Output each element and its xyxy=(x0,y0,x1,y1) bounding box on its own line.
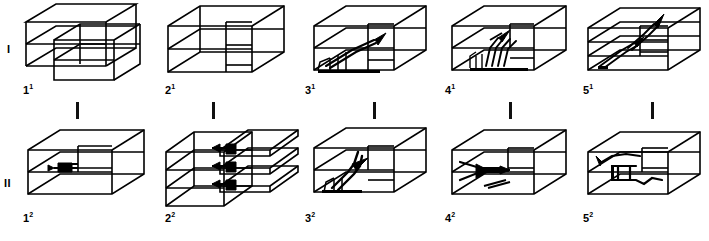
cell-label-sup: 1 xyxy=(29,83,33,90)
cell-label-sup: 1 xyxy=(311,83,315,90)
cell-label-1-2: 12 xyxy=(23,211,33,224)
separator-tick xyxy=(212,102,215,119)
cell-label-1-1: 11 xyxy=(23,83,33,96)
block-diagram-5-1: 51 xyxy=(578,0,709,104)
block-diagram-4-1: 41 xyxy=(440,0,582,104)
cell-label-sup: 2 xyxy=(589,211,593,218)
block-diagram-5-2: 52 xyxy=(578,122,709,226)
block-drawing-2-1 xyxy=(160,0,302,88)
block-drawing-4-2 xyxy=(440,122,582,210)
block-drawing-5-1 xyxy=(578,0,709,88)
cell-label-sup: 1 xyxy=(589,83,593,90)
cell-label-2-1: 21 xyxy=(165,83,175,96)
base-bar xyxy=(470,68,528,71)
cell-label-4-1: 41 xyxy=(445,83,455,96)
block-diagram-2-2: 22 xyxy=(160,122,302,226)
block-diagram-1-2: 12 xyxy=(18,122,160,226)
base-bar xyxy=(322,190,362,193)
cell-label-5-1: 51 xyxy=(583,83,593,96)
block-diagram-2-1: 21 xyxy=(160,0,302,104)
block-drawing-1-2 xyxy=(18,122,160,210)
seam-block xyxy=(611,165,614,181)
block-drawing-2-2 xyxy=(160,122,302,210)
cell-label-sup: 2 xyxy=(311,211,315,218)
block-diagram-3-2: 32 xyxy=(300,122,442,226)
cell-label-sup: 2 xyxy=(451,211,455,218)
diagram-row-II: II xyxy=(0,122,709,226)
block-diagram-figure: I xyxy=(0,0,709,241)
separator-tick xyxy=(373,102,376,119)
block-drawing-3-2 xyxy=(300,122,442,210)
base-bar xyxy=(598,66,608,69)
seam-block xyxy=(226,144,236,190)
cell-label-3-2: 32 xyxy=(305,211,315,224)
cell-label-2-2: 22 xyxy=(165,211,175,224)
separator-tick xyxy=(651,102,654,119)
block-drawing-5-2 xyxy=(578,122,709,210)
diagram-row-I: I xyxy=(0,0,709,104)
cell-label-3-1: 31 xyxy=(305,83,315,96)
block-drawing-3-1 xyxy=(300,0,442,88)
row-label-I: I xyxy=(7,44,11,55)
block-drawing-4-1 xyxy=(440,0,582,88)
block-diagram-1-1: 11 xyxy=(18,0,160,104)
cell-label-sup: 2 xyxy=(29,211,33,218)
block-drawing-1-1 xyxy=(18,0,160,88)
separator-tick xyxy=(509,102,512,119)
row-label-II: II xyxy=(4,178,11,189)
cell-label-5-2: 52 xyxy=(583,211,593,224)
cell-label-sup: 1 xyxy=(451,83,455,90)
row-separator-ticks xyxy=(0,100,709,122)
block-diagram-3-1: 31 xyxy=(300,0,442,104)
cell-label-sup: 1 xyxy=(171,83,175,90)
base-bar xyxy=(318,70,380,73)
arrowhead-icon xyxy=(48,165,54,171)
seam-block xyxy=(58,163,72,172)
cell-label-sup: 2 xyxy=(171,211,175,218)
block-diagram-4-2: 42 xyxy=(440,122,582,226)
cell-label-4-2: 42 xyxy=(445,211,455,224)
separator-tick xyxy=(76,102,79,119)
arrowhead-icon xyxy=(596,156,602,166)
